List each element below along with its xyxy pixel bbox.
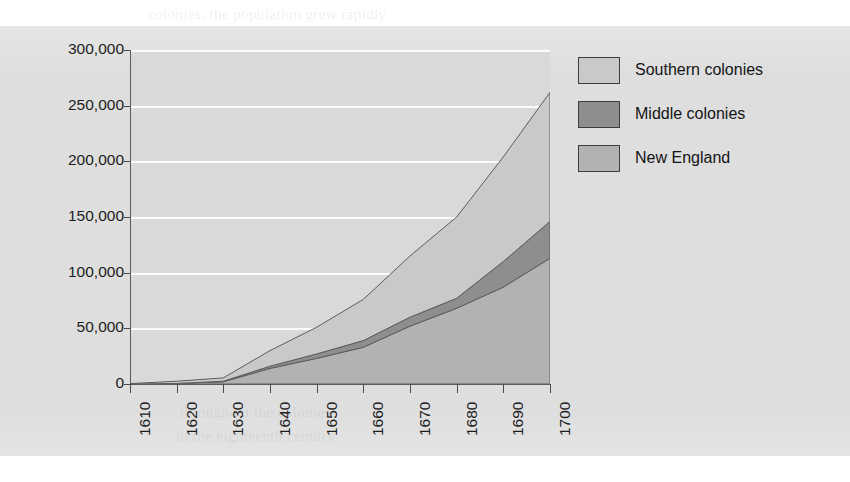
- legend-label: Southern colonies: [635, 61, 763, 79]
- x-axis-tick-label: 1630: [229, 402, 247, 436]
- legend-swatch-southern: [578, 57, 620, 84]
- legend-swatch-middle: [578, 101, 620, 128]
- y-axis-line: [130, 50, 131, 384]
- legend-item: Southern colonies: [578, 52, 818, 88]
- x-axis-tick-mark: [130, 384, 131, 393]
- x-axis-tick-label: 1650: [323, 402, 341, 436]
- y-axis-tick-mark: [124, 273, 130, 274]
- x-axis-tick-label: 1660: [369, 402, 387, 436]
- x-axis-tick-mark: [317, 384, 318, 393]
- x-axis-tick-label: 1700: [556, 402, 574, 436]
- x-axis-tick-label: 1680: [463, 402, 481, 436]
- x-axis-tick-mark: [503, 384, 504, 393]
- y-axis-tick-mark: [124, 106, 130, 107]
- legend-label: Middle colonies: [635, 105, 745, 123]
- x-axis-line: [130, 384, 550, 385]
- y-axis-tick-label: 100,000: [68, 263, 124, 281]
- y-axis-tick-label: 0: [115, 374, 124, 392]
- y-axis-tick-label: 300,000: [68, 40, 124, 58]
- x-axis-tick-label: 1610: [136, 402, 154, 436]
- x-axis-tick-mark: [177, 384, 178, 393]
- x-axis-tick-label: 1620: [183, 402, 201, 436]
- x-axis-tick-label: 1690: [509, 402, 527, 436]
- y-axis-tick-mark: [124, 328, 130, 329]
- x-axis-tick-mark: [410, 384, 411, 393]
- legend-item: Middle colonies: [578, 96, 818, 132]
- legend-item: New England: [578, 140, 818, 176]
- chart-figure: colonies, the population grew rapidlyset…: [0, 0, 850, 482]
- x-axis-tick-mark: [457, 384, 458, 393]
- bleed-text-line: colonies, the population grew rapidly: [148, 6, 387, 23]
- legend-label: New England: [635, 149, 730, 167]
- x-axis-tick-mark: [223, 384, 224, 393]
- y-axis-tick-label: 200,000: [68, 151, 124, 169]
- legend-swatch-new-england: [578, 145, 620, 172]
- x-axis-tick-label: 1670: [416, 402, 434, 436]
- chart-legend: Southern coloniesMiddle coloniesNew Engl…: [578, 52, 818, 184]
- x-axis-labels: 1610162016301640165016601670168016901700: [130, 392, 560, 452]
- stacked-area-series: [130, 50, 550, 384]
- y-axis-tick-label: 150,000: [68, 207, 124, 225]
- x-axis-tick-mark: [270, 384, 271, 393]
- y-axis-tick-mark: [124, 161, 130, 162]
- x-axis-tick-mark: [550, 384, 551, 393]
- y-axis-tick-label: 250,000: [68, 96, 124, 114]
- y-axis-tick-label: 50,000: [77, 318, 124, 336]
- y-axis-tick-mark: [124, 50, 130, 51]
- x-axis-tick-mark: [363, 384, 364, 393]
- y-axis-labels: 050,000100,000150,000200,000250,000300,0…: [28, 50, 124, 384]
- y-axis-tick-mark: [124, 217, 130, 218]
- plot-area: [130, 50, 550, 384]
- x-axis-tick-label: 1640: [276, 402, 294, 436]
